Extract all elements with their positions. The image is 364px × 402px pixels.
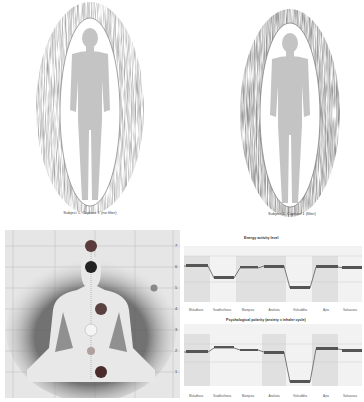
category-label: Muladhara	[184, 308, 208, 312]
y-tick: 3	[175, 327, 177, 332]
y-tick: 7	[175, 243, 177, 248]
y-tick: 4	[175, 306, 177, 311]
category-label: Ajna	[314, 308, 338, 312]
y-tick: 2	[175, 348, 177, 353]
chakra-chart: 7 6 5 4 3 2 1	[5, 230, 180, 398]
y-tick: 1	[175, 369, 177, 374]
aura-right-caption: Subject 1. Capture 1 (filter)	[252, 211, 332, 216]
category-label: Vishuddha	[288, 308, 312, 312]
category-label: Anahata	[262, 308, 286, 312]
meditation-figure-icon	[5, 230, 180, 398]
category-label: Manipura	[236, 308, 260, 312]
category-label: Manipura	[236, 394, 260, 398]
aura-scan-left: Subject 1. Capture 1 (no filter)	[30, 0, 150, 215]
chart-title: Energy activity level	[244, 236, 279, 240]
energy-activity-chart: Energy activity level Muladhara Svadhist…	[184, 236, 362, 314]
category-label: Muladhara	[184, 394, 208, 398]
category-label: Vishuddha	[288, 394, 312, 398]
aura-figure-icon	[30, 0, 150, 215]
y-tick: 6	[175, 264, 177, 269]
y-tick: 5	[175, 285, 177, 290]
aura-scan-right: Subject 1. Capture 1 (filter)	[232, 5, 352, 220]
category-label: Anahata	[262, 394, 286, 398]
chart-title: Psychological polarity (anxiety = inhale…	[226, 318, 306, 322]
category-label: Svadhisthana	[210, 394, 234, 398]
category-label: Svadhisthana	[210, 308, 234, 312]
category-label: Sahasrara	[338, 394, 362, 398]
category-label: Ajna	[314, 394, 338, 398]
aura-left-caption: Subject 1. Capture 1 (no filter)	[50, 210, 130, 215]
category-label: Sahasrara	[338, 308, 362, 312]
aura-figure-icon	[232, 5, 352, 220]
psychological-polarity-chart: Psychological polarity (anxiety = inhale…	[184, 316, 362, 400]
